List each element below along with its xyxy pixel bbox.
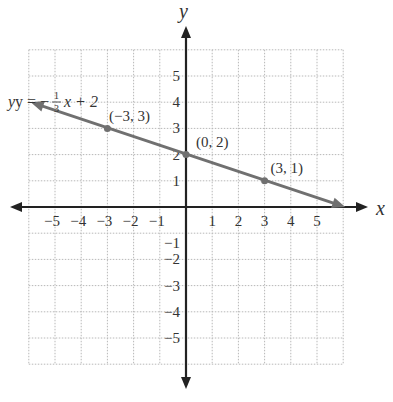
x-tick-label: 3	[261, 213, 269, 229]
x-tick-label: −2	[123, 213, 139, 229]
x-tick-label: −1	[149, 213, 165, 229]
point-label: (−3, 3)	[109, 108, 150, 125]
y-tick-label: −4	[164, 304, 180, 320]
svg-text:x + 2: x + 2	[63, 93, 98, 110]
x-tick-label: 2	[235, 213, 243, 229]
point-label: (3, 1)	[271, 160, 304, 177]
x-axis-right-arrow-icon	[356, 202, 368, 212]
y-tick-label: −3	[164, 278, 180, 294]
y-tick-label: 4	[173, 94, 181, 110]
y-tick-label: −2	[164, 251, 180, 267]
data-point	[104, 125, 111, 132]
data-point	[183, 151, 190, 158]
x-axis-left-arrow-icon	[10, 202, 22, 212]
x-tick-label: −3	[96, 213, 112, 229]
x-tick-label: 5	[313, 213, 321, 229]
y-axis-up-arrow-icon	[181, 26, 191, 38]
x-tick-label: −5	[44, 213, 60, 229]
x-tick-label: 1	[208, 213, 216, 229]
y-tick-label: −1	[164, 235, 180, 251]
y-tick-label: 1	[173, 173, 181, 189]
axes	[10, 26, 368, 389]
y-axis-down-arrow-icon	[181, 377, 191, 389]
y-tick-label: 5	[173, 68, 181, 84]
x-tick-label: 4	[287, 213, 295, 229]
x-axis-label: x	[375, 197, 385, 219]
svg-text:1: 1	[54, 90, 59, 101]
x-tick-label: −4	[70, 213, 86, 229]
svg-text:3: 3	[54, 103, 59, 114]
y-tick-label: −5	[164, 330, 180, 346]
y-tick-label: 3	[173, 120, 181, 136]
data-point	[261, 177, 268, 184]
y-axis-label: y	[177, 0, 188, 23]
coordinate-plane: −5−4−3−2−112345−5−4−3−2−112345 (−3, 3)(0…	[0, 0, 393, 402]
svg-text:yy = −: yy = −	[6, 93, 49, 111]
point-label: (0, 2)	[196, 134, 229, 151]
